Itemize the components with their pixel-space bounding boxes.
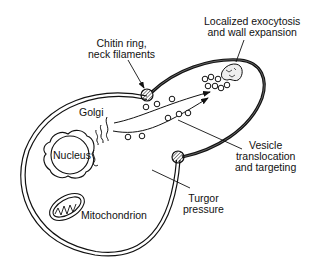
exocytosis-label-line2: and wall expansion — [204, 27, 300, 38]
vesicles — [125, 74, 230, 140]
cell-diagram — [0, 0, 314, 267]
golgi — [93, 117, 108, 166]
exocytosis-label: Localized exocytosis and wall expansion — [204, 16, 300, 38]
chitin-ring-lower — [172, 151, 184, 163]
turgor-label-line2: pressure — [183, 204, 224, 215]
chitin-ring-label: Chitin ring, neck filaments — [88, 38, 155, 60]
chitin-ring-leader — [128, 60, 144, 88]
chitin-ring-label-line2: neck filaments — [88, 49, 155, 60]
mitochondrion-label: Mitochondrion — [81, 210, 147, 221]
vesicle-label: Vesicle translocation and targeting — [235, 140, 296, 173]
chitin-ring-upper — [141, 89, 153, 101]
nucleus-label: Nucleus — [53, 150, 91, 161]
golgi-label: Golgi — [79, 107, 104, 118]
nucleus-label-text: Nucleus — [53, 149, 91, 161]
exocytosis-patch — [221, 64, 242, 81]
vesicle-label-line3: and targeting — [235, 162, 296, 173]
mitochondrion-label-text: Mitochondrion — [81, 209, 147, 221]
golgi-label-text: Golgi — [79, 106, 104, 118]
turgor-label: Turgor pressure — [183, 193, 224, 215]
turgor-leader — [152, 170, 190, 188]
